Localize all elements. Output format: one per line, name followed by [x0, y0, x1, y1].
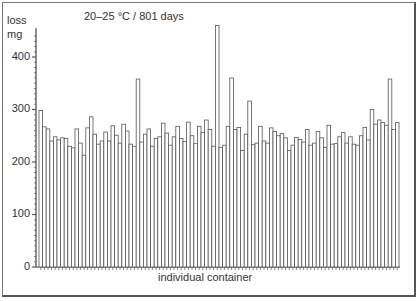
bar: [104, 132, 108, 267]
bar: [82, 155, 86, 267]
bar: [316, 132, 320, 267]
bar: [205, 120, 209, 267]
bar: [237, 127, 241, 267]
bar: [291, 145, 295, 267]
bar: [61, 138, 65, 267]
bar: [176, 126, 180, 267]
bar: [158, 137, 162, 267]
bar: [115, 135, 119, 267]
bar: [334, 144, 338, 267]
bar: [190, 136, 194, 267]
bar: [64, 138, 68, 267]
bar: [320, 138, 324, 267]
bar: [169, 145, 173, 267]
bar: [215, 26, 219, 268]
bar: [100, 141, 104, 267]
bar: [305, 129, 309, 267]
bar: [381, 123, 385, 267]
bar: [280, 134, 284, 267]
bar: [363, 127, 367, 267]
bar: [39, 111, 43, 267]
bar: [298, 139, 302, 267]
bar: [147, 129, 151, 267]
bar: [143, 134, 147, 267]
bar: [43, 127, 47, 267]
bar: [226, 126, 230, 267]
bar: [230, 78, 234, 267]
bar: [122, 124, 126, 267]
bar: [179, 138, 183, 267]
bar: [345, 143, 349, 267]
bar: [273, 132, 277, 267]
bar: [223, 145, 227, 267]
bar: [327, 125, 331, 267]
bar: [251, 145, 255, 267]
bar: [241, 150, 245, 267]
bar: [388, 79, 392, 267]
bar: [349, 137, 353, 267]
bar: [338, 137, 342, 267]
bar: [233, 129, 237, 267]
bar: [93, 134, 97, 267]
bar: [359, 136, 363, 267]
bar: [262, 141, 266, 267]
bar: [107, 141, 111, 267]
bar: [341, 133, 345, 267]
bar: [71, 148, 75, 267]
bar: [266, 143, 270, 267]
bar: [197, 126, 201, 267]
bar: [212, 146, 216, 267]
bar: [244, 134, 248, 267]
bar: [86, 128, 90, 267]
bar: [352, 144, 356, 267]
bar: [395, 123, 399, 267]
bar: [53, 137, 57, 267]
bar: [140, 142, 144, 267]
bar: [172, 137, 176, 267]
bar: [392, 129, 396, 267]
bar: [374, 124, 378, 267]
bar: [284, 138, 288, 267]
bar: [277, 136, 281, 267]
bar: [68, 146, 72, 267]
bar: [165, 133, 169, 267]
bar: [154, 138, 158, 267]
bar: [57, 140, 61, 267]
bar: [385, 125, 389, 267]
bar: [118, 143, 122, 267]
bar: [302, 142, 306, 267]
bar: [151, 146, 155, 267]
bar: [201, 133, 205, 267]
bar: [248, 101, 252, 267]
bar: [313, 143, 317, 267]
bar: [255, 143, 259, 267]
bar: [331, 144, 335, 267]
bar: [75, 129, 79, 267]
bar: [287, 150, 291, 267]
bar: [89, 117, 93, 267]
bar: [136, 79, 140, 267]
bar: [187, 122, 191, 267]
bar: [79, 143, 83, 267]
bar: [111, 126, 115, 267]
bar: [125, 131, 129, 267]
bar: [97, 144, 101, 267]
bar: [269, 128, 273, 267]
bar-plot: [0, 0, 419, 301]
bar: [309, 145, 313, 267]
bar: [323, 147, 327, 267]
bar: [133, 146, 137, 267]
bar: [259, 126, 263, 267]
bar: [295, 137, 299, 267]
bar: [377, 120, 381, 267]
bar: [370, 110, 374, 268]
bar: [183, 142, 187, 267]
bar: [194, 144, 198, 267]
bar: [367, 140, 371, 267]
bar: [129, 144, 133, 267]
bar: [161, 123, 165, 267]
bar: [356, 145, 360, 267]
bar: [46, 129, 50, 267]
bar: [50, 141, 54, 267]
bar: [219, 147, 223, 267]
